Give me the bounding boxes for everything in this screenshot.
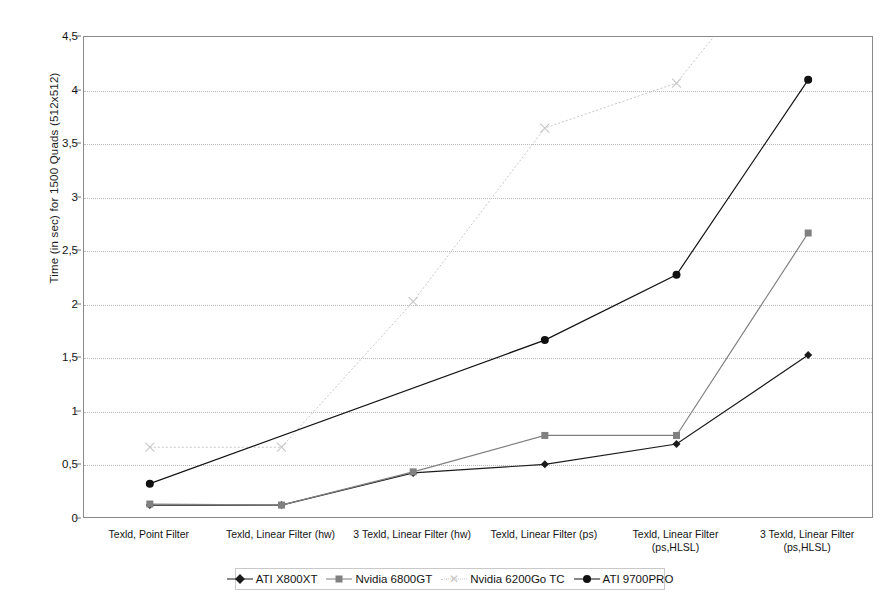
x-axis-labels: Texld, Point FilterTexld, Linear Filter … [83, 528, 873, 572]
data-point [672, 79, 681, 88]
y-axis-ticks: 00,511,522,533,544,5 [0, 0, 78, 607]
legend-label: ATI 9700PRO [603, 573, 674, 585]
y-tick-mark [75, 518, 81, 519]
data-point [409, 297, 418, 306]
legend-marker-icon [326, 573, 352, 585]
data-point [541, 336, 549, 344]
data-point [146, 480, 154, 488]
data-point [278, 502, 285, 509]
data-point [673, 271, 681, 279]
series-line [150, 233, 808, 505]
y-tick-mark [75, 250, 81, 251]
series-lines [84, 37, 873, 518]
data-point [541, 432, 548, 439]
legend-item[interactable]: Nvidia 6800GT [326, 573, 432, 585]
legend-label: Nvidia 6200Go TC [470, 573, 564, 585]
y-tick-mark [75, 464, 81, 465]
legend-item[interactable]: ATI X800XT [227, 573, 318, 585]
series-line [150, 355, 808, 505]
chart-legend: ATI X800XTNvidia 6800GT✕Nvidia 6200Go TC… [235, 568, 665, 590]
y-tick-mark [75, 303, 81, 304]
y-tick-mark [75, 89, 81, 90]
y-tick-label: 0,5 [4, 458, 78, 470]
data-point [804, 76, 812, 84]
data-point [673, 432, 680, 439]
y-tick-label: 3,5 [4, 137, 78, 149]
y-tick-mark [75, 36, 81, 37]
data-point [673, 440, 681, 448]
y-tick-label: 3 [4, 191, 78, 203]
series-line [150, 80, 808, 484]
legend-label: Nvidia 6800GT [355, 573, 432, 585]
data-point [805, 230, 812, 237]
y-tick-mark [75, 410, 81, 411]
y-tick-mark [75, 357, 81, 358]
y-tick-label: 1,5 [4, 351, 78, 363]
plot-area [83, 36, 873, 518]
legend-marker-icon: ✕ [441, 573, 467, 585]
legend-marker-icon [227, 573, 253, 585]
data-point [146, 501, 153, 508]
x-tick-label: 3 Texld, Linear Filter(ps,HLSL) [722, 528, 891, 554]
y-tick-label: 4 [4, 84, 78, 96]
chart-container: Time (in sec) for 1500 Quads (512x512) 0… [0, 0, 891, 607]
y-tick-label: 4,5 [4, 30, 78, 42]
legend-item[interactable]: ATI 9700PRO [574, 573, 674, 585]
y-tick-label: 2 [4, 298, 78, 310]
y-tick-label: 0 [4, 512, 78, 524]
y-tick-mark [75, 196, 81, 197]
data-point [541, 460, 549, 468]
legend-item[interactable]: ✕Nvidia 6200Go TC [441, 573, 564, 585]
y-tick-label: 1 [4, 405, 78, 417]
legend-label: ATI X800XT [256, 573, 318, 585]
data-point [145, 443, 154, 452]
y-tick-mark [75, 143, 81, 144]
data-point [410, 468, 417, 475]
data-point [804, 351, 812, 359]
y-tick-label: 2,5 [4, 244, 78, 256]
data-point [540, 124, 549, 133]
legend-marker-icon [574, 573, 600, 585]
